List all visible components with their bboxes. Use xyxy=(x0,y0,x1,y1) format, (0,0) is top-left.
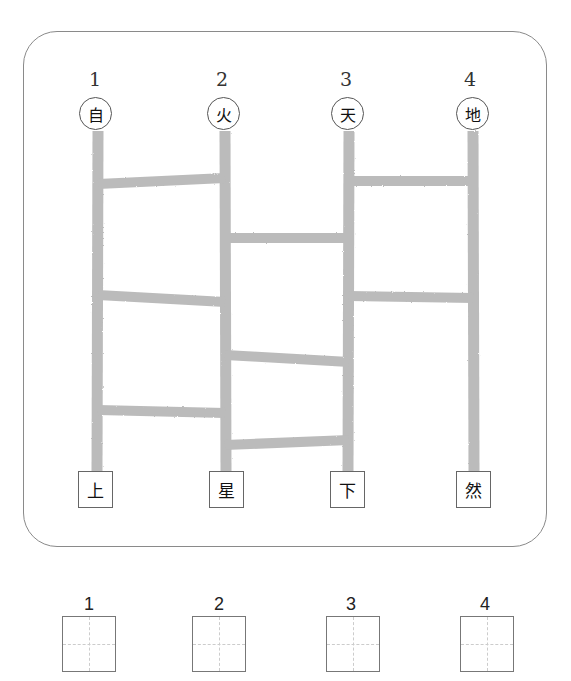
top-character-circle-2: 火 xyxy=(207,97,240,130)
ladder-rung xyxy=(98,295,225,302)
bottom-character-box-3: 下 xyxy=(330,471,365,508)
answer-label-3: 3 xyxy=(331,594,371,615)
top-character-circle-3: 天 xyxy=(331,97,364,130)
ladder-rung xyxy=(98,178,225,184)
answer-box-1[interactable] xyxy=(62,616,116,672)
column-number-4: 4 xyxy=(450,68,490,90)
ladder-rung xyxy=(225,440,349,445)
ladder-rung xyxy=(349,296,473,298)
answer-box-4[interactable] xyxy=(460,616,514,672)
ladder-vertical-4 xyxy=(473,131,474,471)
ladder-vertical-3 xyxy=(348,131,349,471)
bottom-character-box-2: 星 xyxy=(209,471,244,508)
top-character-circle-1: 自 xyxy=(79,97,112,130)
bottom-character-box-1: 上 xyxy=(78,471,113,508)
bottom-character-box-4: 然 xyxy=(456,471,491,508)
answer-box-3[interactable] xyxy=(326,616,380,672)
ladder-rung xyxy=(98,410,225,413)
top-character-circle-4: 地 xyxy=(456,97,489,130)
answer-box-2[interactable] xyxy=(192,616,246,672)
answer-label-1: 1 xyxy=(69,594,109,615)
column-number-3: 3 xyxy=(326,68,366,90)
ladder-rung xyxy=(225,355,349,362)
column-number-1: 1 xyxy=(75,68,115,90)
ladder-vertical-1 xyxy=(97,131,98,471)
column-number-2: 2 xyxy=(202,68,242,90)
answer-label-4: 4 xyxy=(465,594,505,615)
answer-label-2: 2 xyxy=(199,594,239,615)
